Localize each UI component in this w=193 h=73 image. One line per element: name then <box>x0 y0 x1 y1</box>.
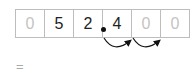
shift-arrows <box>0 0 193 73</box>
equals-sign: = <box>16 59 24 73</box>
arrow-icon <box>133 38 159 47</box>
arrow-icon <box>104 38 130 47</box>
